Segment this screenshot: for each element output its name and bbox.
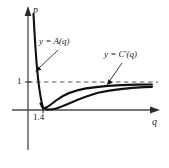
cost-curves-figure: p q 1 1.4 y = A(q) y = C'(q) xyxy=(0,0,169,168)
average-cost-leader-line xyxy=(38,50,59,70)
y-axis-arrowhead xyxy=(25,6,32,16)
y-tick-label-1: 1 xyxy=(17,77,22,86)
marginal-cost-label: y = C'(q) xyxy=(104,50,137,59)
x-axis-arrowhead xyxy=(150,107,160,114)
y-axis-label: p xyxy=(33,5,38,15)
marginal-cost-curve xyxy=(41,87,153,110)
marginal-cost-leader-line xyxy=(109,63,123,83)
x-axis-label: q xyxy=(152,117,157,127)
x-tick-label-1point4: 1.4 xyxy=(33,113,44,122)
average-cost-label: y = A(q) xyxy=(39,37,69,46)
plot-canvas xyxy=(0,0,169,168)
